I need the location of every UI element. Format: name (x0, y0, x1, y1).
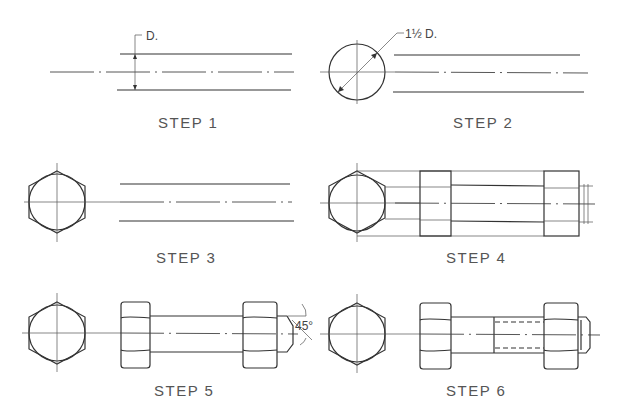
chamfer-angle-text: 45° (295, 319, 313, 333)
dimension-1-5d-text: 1½ D. (405, 27, 437, 41)
step-6-label: STEP 6 (446, 382, 506, 399)
step-5-drawing: 45° (22, 293, 313, 372)
dimension-d-leader (135, 35, 142, 90)
step-2-drawing: 1½ D. (320, 27, 588, 104)
step-5-label: STEP 5 (154, 382, 214, 399)
step-3-drawing (24, 163, 294, 242)
step-1-drawing: D. (50, 29, 294, 90)
step-4-drawing (320, 163, 595, 242)
step-1-label: STEP 1 (158, 114, 218, 131)
step-6-drawing (320, 294, 600, 373)
step-2-label: STEP 2 (453, 114, 513, 131)
dimension-d-text: D. (146, 29, 158, 43)
bolt-drawing-steps: D. STEP 1 1½ D. STEP 2 STEP 3 (0, 0, 619, 416)
step-3-label: STEP 3 (156, 249, 216, 266)
dimension-1-5d-leader (338, 33, 404, 92)
step-4-label: STEP 4 (446, 249, 506, 266)
